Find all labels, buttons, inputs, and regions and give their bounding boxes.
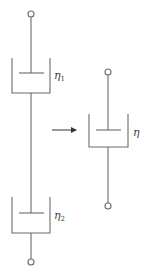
- dashpot-equivalence-diagram: η1 η2 η: [0, 0, 149, 275]
- left-series-system: η1 η2: [12, 11, 65, 265]
- equivalent-dashpot-label: η: [133, 126, 140, 139]
- top-terminal-node: [28, 11, 34, 17]
- bottom-terminal-node: [28, 259, 34, 265]
- dashpot-2: η2: [12, 197, 65, 233]
- dashpot-2-label: η2: [54, 209, 65, 223]
- equivalent-dashpot: η: [89, 114, 140, 147]
- right-bottom-terminal-node: [105, 203, 111, 209]
- dashpot-1-label: η1: [54, 69, 65, 83]
- right-top-terminal-node: [105, 69, 111, 75]
- right-equivalent-system: η: [89, 69, 140, 209]
- dashpot-1: η1: [12, 58, 65, 93]
